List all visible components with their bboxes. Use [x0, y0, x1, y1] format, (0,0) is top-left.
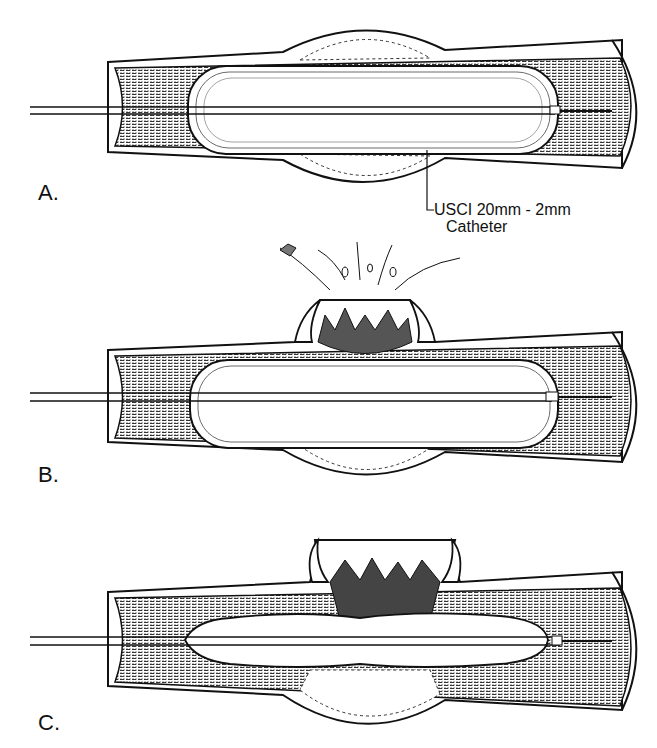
panel-label-a: A.	[38, 180, 59, 206]
vessel-wall-rupture-illustration	[0, 230, 657, 500]
panel-a: A. USCI 20mm - 2mm Catheter	[0, 0, 657, 240]
panel-c: C.	[0, 510, 657, 748]
panel-label-b: B.	[38, 462, 59, 488]
callout-line-1: USCI 20mm - 2mm	[434, 201, 571, 218]
panel-label-c: C.	[38, 710, 60, 736]
vessel-deflated-balloon-illustration	[0, 510, 657, 748]
panel-b: B.	[0, 230, 657, 500]
